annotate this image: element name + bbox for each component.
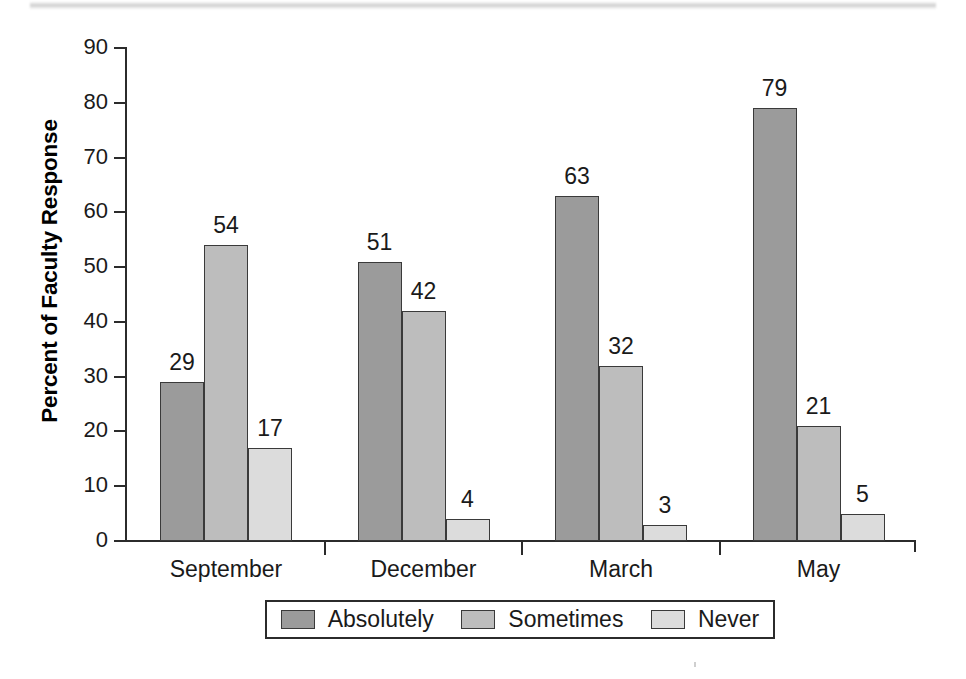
y-axis-tick-40 <box>114 321 125 323</box>
y-axis-tick-label-90: 90 <box>38 36 108 58</box>
legend-entry-absolutely: Absolutely <box>281 608 434 631</box>
y-axis-tick-10 <box>114 485 125 487</box>
y-axis-tick-label-70: 70 <box>38 146 108 168</box>
y-axis-tick-label-0: 0 <box>38 529 108 551</box>
bar-value-may-never: 5 <box>823 483 903 506</box>
bar-value-december-never: 4 <box>428 488 508 511</box>
y-axis-tick-label-80: 80 <box>38 91 108 113</box>
y-axis-tick-label-10: 10 <box>38 474 108 496</box>
chart-legend: AbsolutelySometimesNever <box>265 600 775 639</box>
y-axis-tick-30 <box>114 376 125 378</box>
bar-december-absolutely <box>358 262 402 541</box>
legend-swatch-never <box>651 610 685 629</box>
x-axis-label-may: May <box>679 556 959 582</box>
scan-speck-artifact <box>694 662 696 667</box>
bar-value-march-sometimes: 32 <box>581 335 661 358</box>
y-axis-tick-60 <box>114 211 125 213</box>
bar-may-never <box>841 514 885 541</box>
bar-value-may-absolutely: 79 <box>735 77 815 100</box>
legend-entry-never: Never <box>651 608 759 631</box>
y-axis-tick-label-50: 50 <box>38 255 108 277</box>
bar-september-absolutely <box>160 382 204 541</box>
y-axis-tick-50 <box>114 266 125 268</box>
bar-september-never <box>248 448 292 541</box>
bar-value-may-sometimes: 21 <box>779 395 859 418</box>
y-axis-tick-70 <box>114 157 125 159</box>
y-axis-tick-0 <box>114 540 125 542</box>
legend-label-absolutely: Absolutely <box>328 608 434 631</box>
bar-value-september-never: 17 <box>230 417 310 440</box>
bar-may-absolutely <box>753 108 797 541</box>
bar-march-never <box>643 525 687 541</box>
x-axis-end-cap <box>914 540 916 552</box>
x-axis-separator-1 <box>324 542 326 555</box>
x-axis-separator-3 <box>719 542 721 555</box>
bar-value-december-sometimes: 42 <box>384 280 464 303</box>
y-axis-tick-label-40: 40 <box>38 310 108 332</box>
bar-value-march-never: 3 <box>625 494 705 517</box>
y-axis-tick-20 <box>114 430 125 432</box>
bar-chart-figure: Percent of Faculty Response 010203040506… <box>0 0 966 679</box>
y-axis-tick-label-20: 20 <box>38 419 108 441</box>
bar-december-never <box>446 519 490 541</box>
bar-value-september-sometimes: 54 <box>186 214 266 237</box>
legend-entry-sometimes: Sometimes <box>461 608 623 631</box>
x-axis-separator-2 <box>521 542 523 555</box>
bar-value-march-absolutely: 63 <box>537 165 617 188</box>
y-axis-tick-label-60: 60 <box>38 200 108 222</box>
legend-swatch-sometimes <box>461 610 495 629</box>
plot-area: 295417514246332379215 <box>126 48 916 541</box>
legend-swatch-absolutely <box>281 610 315 629</box>
legend-label-sometimes: Sometimes <box>508 608 623 631</box>
y-axis-tick-90 <box>114 47 125 49</box>
legend-label-never: Never <box>698 608 759 631</box>
y-axis-tick-label-30: 30 <box>38 365 108 387</box>
bar-september-sometimes <box>204 245 248 541</box>
y-axis-tick-80 <box>114 102 125 104</box>
bar-value-december-absolutely: 51 <box>340 231 420 254</box>
bar-march-absolutely <box>555 196 599 541</box>
